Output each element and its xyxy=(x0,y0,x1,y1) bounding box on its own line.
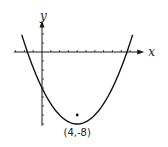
x-axis: x xyxy=(14,45,155,59)
x-axis-label: x xyxy=(148,45,155,59)
y-axis: y xyxy=(39,9,47,126)
vertex-label: (4,-8) xyxy=(64,127,91,138)
parabola-chart: x y (4,-8) xyxy=(0,0,168,147)
y-axis-label: y xyxy=(39,9,47,23)
marker-point xyxy=(76,114,79,117)
parabola-curve xyxy=(22,35,133,124)
x-axis-arrow-icon xyxy=(137,50,144,55)
